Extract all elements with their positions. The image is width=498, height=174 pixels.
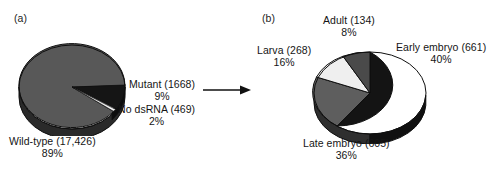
label-mutant: Mutant (1668) 9%	[129, 78, 195, 103]
label-late-embryo-pct: 36%	[303, 149, 390, 161]
label-no-dsrna-pct: 2%	[118, 115, 195, 127]
panel-a-label: (a)	[14, 12, 27, 24]
label-wild-type-name: Wild-type (17,426)	[9, 135, 96, 147]
transition-arrow	[202, 82, 252, 102]
label-no-dsrna-name: No dsRNA (469)	[118, 103, 195, 115]
label-larva-name: Larva (268)	[257, 44, 311, 56]
label-early-embryo-name: Early embryo (661)	[396, 41, 486, 53]
arrow-head	[240, 85, 251, 94]
label-adult-name: Adult (134)	[323, 14, 375, 26]
label-no-dsrna: No dsRNA (469) 2%	[118, 103, 195, 128]
label-mutant-name: Mutant (1668)	[129, 78, 195, 90]
label-early-embryo-pct: 40%	[396, 53, 486, 65]
arrow-right-icon	[202, 82, 252, 98]
label-larva: Larva (268) 16%	[257, 44, 311, 69]
label-early-embryo: Early embryo (661) 40%	[396, 41, 486, 66]
pie-chart-panel-a	[16, 36, 134, 136]
label-wild-type: Wild-type (17,426) 89%	[9, 135, 96, 160]
label-adult-pct: 8%	[323, 26, 375, 38]
label-larva-pct: 16%	[257, 56, 311, 68]
figure-canvas: (a)	[0, 0, 498, 174]
label-wild-type-pct: 89%	[9, 147, 96, 159]
label-mutant-pct: 9%	[129, 90, 195, 102]
pie-a-top-face	[19, 44, 125, 129]
panel-b-label: (b)	[262, 12, 275, 24]
label-adult: Adult (134) 8%	[323, 14, 375, 39]
label-late-embryo-name: Late embryo (605)	[303, 137, 390, 149]
label-late-embryo: Late embryo (605) 36%	[303, 137, 390, 162]
pie-a-svg	[16, 36, 134, 136]
